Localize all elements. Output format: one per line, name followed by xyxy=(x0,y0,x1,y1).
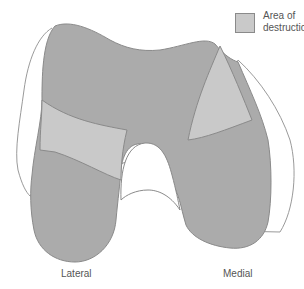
legend-swatch xyxy=(235,13,255,33)
legend: Area of destruction xyxy=(235,10,304,34)
legend-label: Area of destruction xyxy=(263,10,304,34)
medial-label: Medial xyxy=(223,268,252,279)
femoral-condyle-diagram xyxy=(0,0,304,289)
lateral-label: Lateral xyxy=(61,268,92,279)
